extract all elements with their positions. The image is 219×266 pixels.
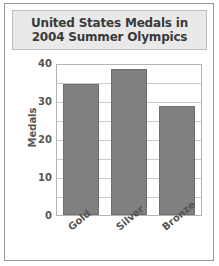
chart-title-banner: United States Medals in 2004 Summer Olym…	[12, 10, 207, 50]
x-axis-ticks: Gold Silver Bronze	[56, 218, 202, 258]
bar-gold	[63, 84, 99, 215]
chart-title-line-1: United States Medals in	[31, 16, 188, 30]
chart-title-line-2: 2004 Summer Olympics	[32, 30, 188, 44]
y-axis-ticks: 40 30 20 10 0	[20, 64, 52, 216]
plot-frame	[56, 64, 202, 216]
y-tick-label-10: 10	[22, 172, 52, 183]
y-tick-label-40: 40	[22, 58, 52, 69]
y-tick-label-30: 30	[22, 96, 52, 107]
bar-series	[57, 65, 201, 215]
bar-silver	[111, 69, 147, 215]
y-tick-label-0: 0	[22, 210, 52, 221]
y-tick-label-20: 20	[22, 134, 52, 145]
chart-plot-area: Medals 40 30 20 10 0 Gold Silver	[12, 54, 207, 254]
chart-figure: United States Medals in 2004 Summer Olym…	[4, 3, 214, 261]
